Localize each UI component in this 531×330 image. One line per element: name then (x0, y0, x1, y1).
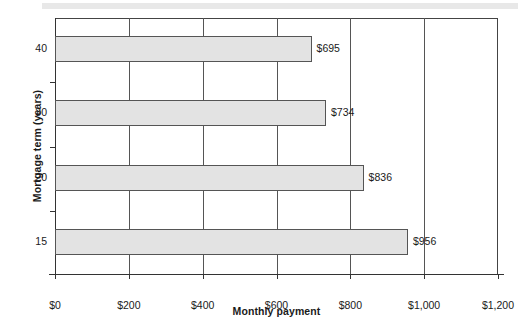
x-axis-tick (55, 274, 56, 279)
bar-value-label: $695 (317, 42, 340, 54)
x-axis-tick-label: $1,200 (468, 299, 528, 311)
bar-chart: Mortgage term (years) Monthly payment $6… (0, 0, 531, 330)
y-axis-category-label: 20 (3, 171, 47, 183)
x-axis-tick-label: $400 (173, 299, 233, 311)
x-axis-tick (350, 274, 351, 279)
x-axis-tick (424, 274, 425, 279)
bar-value-label: $836 (369, 171, 392, 183)
bar-value-label: $956 (413, 235, 436, 247)
x-axis-tick (277, 274, 278, 279)
y-axis-category-label: 40 (3, 42, 47, 54)
x-axis-tick (129, 274, 130, 279)
x-axis-tick (203, 274, 204, 279)
y-axis-title: Mortgage term (years) (31, 46, 43, 246)
x-axis-tick-label: $200 (99, 299, 159, 311)
bar-value-label: $734 (331, 106, 354, 118)
x-axis-tick-label: $800 (320, 299, 380, 311)
bar (55, 165, 364, 191)
x-axis-tick-label: $1,000 (394, 299, 454, 311)
y-axis-category-label: 30 (3, 106, 47, 118)
x-axis-tick-label: $600 (247, 299, 307, 311)
y-axis-tick (50, 211, 55, 212)
bar (55, 100, 326, 126)
bar (55, 229, 408, 255)
y-axis-category-label: 15 (3, 235, 47, 247)
top-banner-strip (42, 3, 518, 9)
plot-border-right (497, 18, 498, 275)
y-axis-tick (50, 82, 55, 83)
x-axis-tick-label: $0 (25, 299, 85, 311)
plot-area: $695$734$836$956 40302015 $0$200$400$600… (55, 18, 498, 275)
x-axis-tick (498, 274, 499, 279)
y-axis-tick (50, 147, 55, 148)
bar (55, 36, 312, 62)
